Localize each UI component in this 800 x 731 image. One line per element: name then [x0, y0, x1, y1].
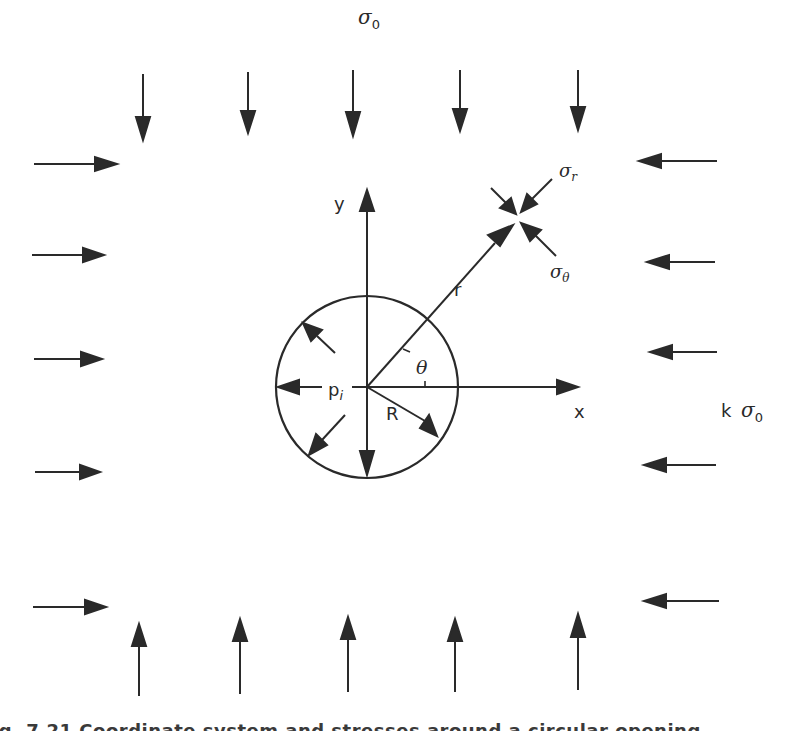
arrow-left-icon	[644, 594, 719, 608]
radius-label: r	[454, 279, 462, 300]
radial-stress-label: σr	[559, 160, 578, 184]
arrow-down-icon	[571, 70, 585, 130]
arrow-up-left-icon	[303, 323, 335, 353]
arrow-right-icon	[33, 600, 106, 614]
arrow-down-left-icon	[521, 179, 552, 212]
arrow-down-icon	[453, 70, 467, 131]
arrow-up-icon	[341, 617, 355, 692]
arrow-left-icon	[650, 345, 717, 359]
stress-diagram: σ0 k σ0 y x r θ pi R σr σθ	[0, 0, 800, 731]
arrow-down-icon	[241, 72, 255, 133]
arrow-right-icon	[34, 352, 102, 366]
internal-pressure-arrows	[278, 323, 437, 475]
arrow-left-icon	[639, 154, 717, 168]
diagram-labels: σ0 k σ0 y x r θ pi R σr σθ	[328, 5, 763, 425]
arrow-up-left-icon	[521, 223, 556, 256]
y-axis-label: y	[334, 193, 345, 214]
tangential-stress-label: σθ	[550, 261, 570, 285]
x-axis-label: x	[574, 401, 585, 422]
arrow-down-icon	[136, 74, 150, 140]
angle-label: θ	[416, 356, 428, 378]
arrow-right-icon	[35, 465, 100, 479]
top-stress-label: σ0	[358, 5, 380, 32]
figure-caption: Fig. 7.21 Coordinate system and stresses…	[0, 717, 800, 731]
arrow-left-icon	[278, 380, 322, 394]
arrow-up-icon	[448, 619, 462, 692]
radius-vector	[367, 225, 513, 387]
hole-radius-label: R	[386, 403, 399, 424]
side-stress-label: σ0	[741, 398, 763, 425]
arrow-up-icon	[571, 614, 585, 690]
internal-pressure-label: pi	[328, 379, 343, 403]
arrow-down-left-icon	[309, 415, 345, 455]
arrow-up-icon	[132, 624, 146, 696]
arrow-right-icon	[34, 157, 117, 171]
arrow-left-icon	[644, 458, 716, 472]
right-load-arrows	[639, 154, 719, 608]
top-load-arrows	[136, 70, 585, 140]
arrow-right-icon	[32, 248, 104, 262]
arrow-down-icon	[360, 428, 374, 475]
bottom-load-arrows	[132, 614, 585, 696]
arrow-up-icon	[233, 619, 247, 694]
side-stress-k-label: k	[721, 400, 732, 421]
left-load-arrows	[32, 157, 117, 614]
arrow-left-icon	[647, 255, 715, 269]
arrow-down-right-icon	[367, 387, 437, 436]
arrow-down-icon	[346, 70, 360, 136]
arrow-down-right-icon	[491, 188, 516, 214]
x-axis	[352, 380, 578, 394]
